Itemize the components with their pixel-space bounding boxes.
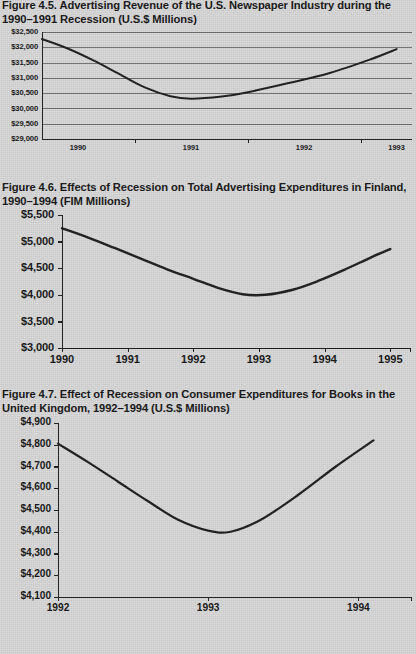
figure-4-7-plot: $4,900$4,800$4,700$4,600$4,500$4,400$4,3… <box>0 415 416 630</box>
x-axis-tick-label: 1994 <box>295 353 355 365</box>
y-axis-tick-label: $4,000 <box>21 288 54 300</box>
y-axis-tick-label: $5,500 <box>21 208 54 220</box>
x-axis-tick-label: 1994 <box>328 602 388 613</box>
data-series-line <box>62 228 390 295</box>
x-axis-tick-label: 1991 <box>161 143 221 152</box>
y-axis-tick-label: $4,200 <box>20 568 51 579</box>
y-axis-tick-label: $29,500 <box>11 119 38 128</box>
y-axis-tick-label: $4,400 <box>20 525 51 536</box>
figure-4-6-plot: $5,500$5,000$4,500$4,000$3,500$3,0001990… <box>0 208 416 373</box>
data-series-line <box>58 441 373 533</box>
x-axis-tick-label: 1993 <box>367 143 416 152</box>
y-axis-tick-label: $4,300 <box>20 547 51 558</box>
x-axis-tick-label: 1990 <box>48 143 108 152</box>
plot2-svg <box>0 208 416 373</box>
figure-4-6-title: Figure 4.6. Effects of Recession on Tota… <box>0 181 416 208</box>
y-axis-tick-label: $32,500 <box>11 27 38 36</box>
y-axis-tick-label: $3,000 <box>21 341 54 353</box>
figure-4-7-title: Figure 4.7. Effect of Recession on Consu… <box>0 388 416 415</box>
y-axis-tick-label: $5,000 <box>21 235 54 247</box>
x-axis-tick-label: 1992 <box>163 353 223 365</box>
y-axis-tick-label: $4,800 <box>20 438 51 449</box>
y-axis-tick-label: $31,000 <box>11 73 38 82</box>
x-axis-tick-label: 1992 <box>274 143 334 152</box>
x-axis-tick-label: 1993 <box>178 602 238 613</box>
figure-4-5-plot: $32,500$32,000$31,500$31,000$30,500$30,0… <box>0 26 416 166</box>
y-axis-tick-label: $4,700 <box>20 460 51 471</box>
y-axis-tick-label: $4,500 <box>21 261 54 273</box>
figures-page: Figure 4.5. Advertising Revenue of the U… <box>0 0 416 654</box>
y-axis-tick-label: $29,000 <box>11 134 38 143</box>
y-axis-tick-label: $4,900 <box>20 416 51 427</box>
figure-4-7: Figure 4.7. Effect of Recession on Consu… <box>0 388 416 630</box>
y-axis-tick-label: $4,600 <box>20 481 51 492</box>
x-axis-tick-label: 1990 <box>32 353 92 365</box>
y-axis-tick-label: $32,000 <box>11 42 38 51</box>
y-axis-tick-label: $4,500 <box>20 503 51 514</box>
y-axis-tick-label: $3,500 <box>21 315 54 327</box>
x-axis-tick-label: 1992 <box>28 602 88 613</box>
y-axis-tick-label: $30,000 <box>11 104 38 113</box>
figure-4-5-title: Figure 4.5. Advertising Revenue of the U… <box>0 0 416 26</box>
plot3-svg <box>0 415 416 630</box>
y-axis-tick-label: $30,500 <box>11 88 38 97</box>
y-axis-tick-label: $4,100 <box>20 590 51 601</box>
x-axis-tick-label: 1991 <box>98 353 158 365</box>
x-axis-tick-label: 1995 <box>360 353 416 365</box>
y-axis-tick-label: $31,500 <box>11 58 38 67</box>
figure-4-5: Figure 4.5. Advertising Revenue of the U… <box>0 0 416 166</box>
figure-4-6: Figure 4.6. Effects of Recession on Tota… <box>0 181 416 373</box>
x-axis-tick-label: 1993 <box>229 353 289 365</box>
